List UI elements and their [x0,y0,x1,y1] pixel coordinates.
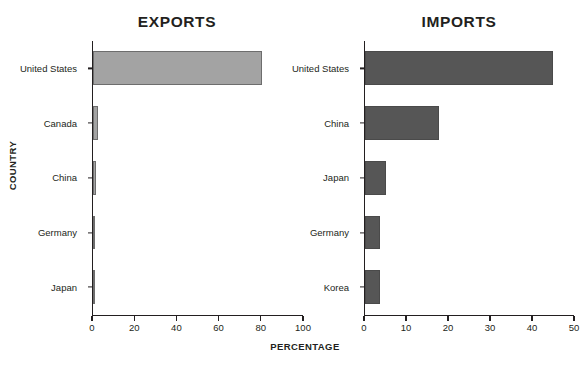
y-tick [88,232,93,233]
x-axis-title: PERCENTAGE [235,341,375,352]
x-tick-label: 40 [171,322,182,333]
bar-united-states [365,51,553,85]
category-label: China [0,150,84,205]
x-tick-label: 10 [401,322,412,333]
x-tick-label: 40 [527,322,538,333]
bar-china [365,106,439,140]
x-tick-label: 30 [485,322,496,333]
category-label: Germany [272,205,356,260]
x-tick [91,316,92,321]
x-tick [363,316,364,321]
exports-chart-title: EXPORTS [92,13,262,31]
imports-chart-title: IMPORTS [364,13,554,31]
y-tick [360,232,365,233]
imports-bars [365,41,574,315]
bar-slot [365,96,574,151]
x-tick-label: 100 [295,322,311,333]
bar-canada [93,106,98,140]
x-tick-label: 0 [89,322,94,333]
x-tick [489,316,490,321]
bar-germany [93,216,95,250]
x-tick [302,316,303,321]
bar-japan [93,270,95,304]
x-tick [405,316,406,321]
y-tick [88,68,93,69]
bar-china [93,161,96,195]
y-tick [88,177,93,178]
category-label: Korea [272,260,356,315]
imports-x-ticks [364,316,574,321]
category-label: United States [272,41,356,96]
bar-slot [365,150,574,205]
category-label: China [272,96,356,151]
imports-category-labels: United States China Japan Germany Korea [272,41,356,315]
x-tick [134,316,135,321]
x-tick-label: 50 [569,322,580,333]
x-tick [531,316,532,321]
exports-category-labels: United States Canada China Germany Japan [0,41,84,315]
bar-slot [365,260,574,315]
category-label: United States [0,41,84,96]
y-tick [360,68,365,69]
exports-x-ticks [92,316,303,321]
category-label: Japan [272,150,356,205]
y-tick [88,122,93,123]
bar-slot [365,41,574,96]
category-label: Germany [0,205,84,260]
x-tick [447,316,448,321]
imports-panel: IMPORTS United States China Japan German… [330,0,586,365]
x-tick [218,316,219,321]
bar-slot [365,205,574,260]
x-tick-label: 20 [129,322,140,333]
bar-united-states [93,51,262,85]
x-tick [176,316,177,321]
exports-x-tick-labels: 020406080100 [92,322,303,336]
y-tick [360,122,365,123]
y-tick [360,177,365,178]
imports-plot-area [364,41,574,316]
figure: EXPORTS COUNTRY United States Canada Chi… [0,0,586,365]
x-tick-label: 80 [256,322,267,333]
x-tick [573,316,574,321]
x-tick-label: 0 [361,322,366,333]
imports-x-tick-labels: 01020304050 [364,322,574,336]
category-label: Canada [0,96,84,151]
category-label: Japan [0,260,84,315]
y-tick [360,287,365,288]
y-tick [88,287,93,288]
x-tick-label: 60 [213,322,224,333]
bar-germany [365,216,380,250]
x-tick-label: 20 [443,322,454,333]
x-tick [260,316,261,321]
bar-japan [365,161,386,195]
bar-korea [365,270,380,304]
